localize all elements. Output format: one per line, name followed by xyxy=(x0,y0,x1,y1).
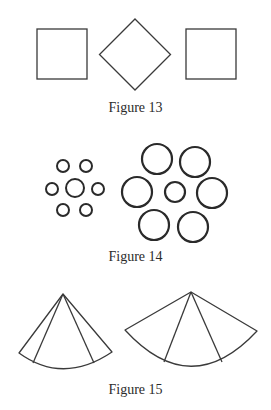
figure-13-shapes xyxy=(0,0,271,410)
large-cluster-ring-circle xyxy=(142,144,172,174)
small-cluster-center-circle xyxy=(66,179,84,197)
right-square xyxy=(186,29,236,79)
small-cluster-ring-circle xyxy=(57,204,69,216)
small-cluster-ring-circle xyxy=(46,183,58,195)
figure-14-caption: Figure 14 xyxy=(0,249,271,265)
left-square xyxy=(37,29,87,79)
large-circle-cluster xyxy=(122,144,227,242)
small-circle-cluster xyxy=(46,160,104,216)
narrow-sector xyxy=(19,294,112,369)
large-cluster-ring-circle xyxy=(178,212,208,242)
large-cluster-ring-circle xyxy=(197,178,227,208)
large-cluster-center-circle xyxy=(165,182,185,202)
large-cluster-ring-circle xyxy=(139,210,169,240)
figure-15-caption: Figure 15 xyxy=(0,382,271,398)
large-cluster-ring-circle xyxy=(122,177,152,207)
figure-13-caption: Figure 13 xyxy=(0,100,271,116)
small-cluster-ring-circle xyxy=(80,204,92,216)
diamond xyxy=(100,19,171,90)
large-cluster-ring-circle xyxy=(180,147,210,177)
wide-sector xyxy=(125,292,257,366)
small-cluster-ring-circle xyxy=(57,160,69,172)
small-cluster-ring-circle xyxy=(80,160,92,172)
small-cluster-ring-circle xyxy=(92,183,104,195)
